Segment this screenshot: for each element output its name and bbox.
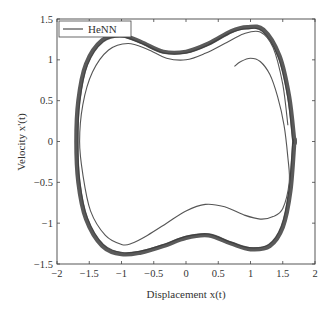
- y-tick-label: −1.5: [34, 259, 53, 270]
- transient-trajectory-curve: [80, 31, 290, 245]
- x-tick-label: 2: [312, 268, 317, 279]
- y-tick-label: −1: [42, 218, 53, 229]
- x-axis-title-text: Displacement x(t): [146, 288, 225, 301]
- x-tick-label: −2: [51, 268, 62, 279]
- y-tick-label: 1.5: [40, 14, 53, 25]
- x-tick-label: 0.5: [212, 268, 225, 279]
- x-tick-label: −1: [116, 268, 127, 279]
- y-axis-title-text: Velocity x'(t): [15, 113, 28, 171]
- phase-plot: −2−1.5−1−0.500.511.52−1.5−1−0.500.511.5 …: [0, 0, 333, 309]
- y-tick-label: 0.5: [40, 95, 53, 106]
- legend: HeNN: [59, 21, 131, 37]
- x-tick-label: −0.5: [144, 268, 163, 279]
- y-tick-label: 1: [48, 54, 53, 65]
- limit-cycle-curve: [76, 27, 295, 255]
- x-axis-title: Displacement x(t): [146, 288, 225, 301]
- x-tick-label: 0: [183, 268, 188, 279]
- x-tick-label: 1: [248, 268, 253, 279]
- plot-series-group: [76, 27, 295, 255]
- y-axis-title: Velocity x'(t): [15, 113, 28, 171]
- legend-label-henn: HeNN: [88, 23, 117, 35]
- x-tick-label: −1.5: [80, 268, 99, 279]
- y-tick-label: −0.5: [34, 177, 53, 188]
- y-tick-label: 0: [48, 136, 53, 147]
- x-tick-label: 1.5: [276, 268, 289, 279]
